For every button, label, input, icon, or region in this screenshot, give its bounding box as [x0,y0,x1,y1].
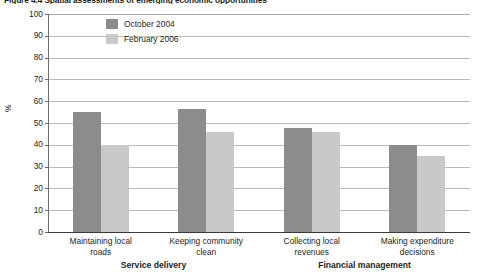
bar-1-1 [206,132,234,232]
y-tick-mark-70 [45,79,48,80]
bar-1-2 [312,132,340,232]
bar-0-1 [178,109,206,232]
y-tick-mark-90 [45,36,48,37]
y-tick-mark-50 [45,123,48,124]
category-label-line: Maintaining local [48,236,154,247]
chart-legend: October 2004 February 2006 [106,18,202,48]
category-label-line: Collecting local [259,236,365,247]
y-tick-mark-80 [45,58,48,59]
bar-0-3 [389,145,417,232]
legend-label-october-2004: October 2004 [124,19,175,29]
y-tick-label-70: 70 [19,75,43,84]
x-axis-group-label-1: Financial management [259,260,470,270]
legend-swatch-february-2006 [106,34,118,44]
legend-item-1: February 2006 [106,33,202,46]
category-label-line: Making expenditure [365,236,471,247]
y-tick-label-100: 100 [19,10,43,19]
legend-label-february-2006: February 2006 [124,34,178,44]
x-axis-category-label-0: Maintaining localroads [48,236,154,257]
y-tick-label-0: 0 [19,228,43,237]
x-axis-group-label-0: Service delivery [48,260,259,270]
y-tick-mark-40 [45,145,48,146]
gridline-100 [49,14,470,15]
category-label-line: clean [154,247,260,258]
legend-swatch-october-2004 [106,19,118,29]
gridline-50 [49,123,470,124]
y-tick-mark-30 [45,167,48,168]
legend-item-0: October 2004 [106,18,202,31]
y-tick-label-20: 20 [19,184,43,193]
y-tick-label-50: 50 [19,119,43,128]
y-tick-mark-20 [45,188,48,189]
y-tick-mark-100 [45,14,48,15]
y-tick-mark-0 [45,232,48,233]
y-tick-label-80: 80 [19,53,43,62]
y-tick-label-30: 30 [19,162,43,171]
y-axis-title: % [3,105,13,112]
bar-0-2 [284,128,312,232]
category-label-line: roads [48,247,154,258]
gridline-80 [49,58,470,59]
x-axis-category-label-1: Keeping communityclean [154,236,260,257]
category-label-line: decisions [365,247,471,258]
category-label-line: Keeping community [154,236,260,247]
bar-0-0 [73,112,101,232]
y-tick-mark-10 [45,210,48,211]
y-tick-label-60: 60 [19,97,43,106]
x-axis-category-label-3: Making expendituredecisions [365,236,471,257]
gridline-70 [49,79,470,80]
category-label-line: revenues [259,247,365,258]
gridline-60 [49,101,470,102]
x-axis-category-label-2: Collecting localrevenues [259,236,365,257]
figure-caption: Figure 4.4 Spatial assessments of emergi… [4,0,267,4]
y-tick-mark-60 [45,101,48,102]
y-tick-label-10: 10 [19,206,43,215]
y-tick-label-90: 90 [19,31,43,40]
x-axis-line [48,232,470,233]
bar-1-3 [417,156,445,232]
figure-container: Figure 4.4 Spatial assessments of emergi… [0,0,477,276]
bar-1-0 [101,145,129,232]
y-tick-label-40: 40 [19,140,43,149]
